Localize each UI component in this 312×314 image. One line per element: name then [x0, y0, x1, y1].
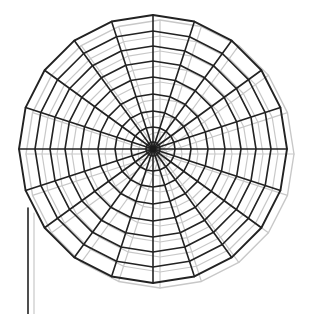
figure-canvas: Polar wireframe mesh of a parabolic dish… — [0, 0, 312, 314]
dish-wireframe-figure: Polar wireframe mesh of a parabolic dish… — [0, 0, 312, 314]
hub-center — [150, 146, 157, 153]
